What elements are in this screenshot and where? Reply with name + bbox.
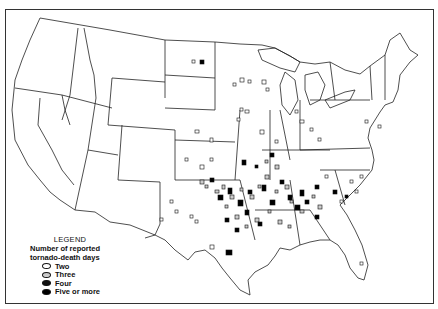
legend-subtitle-line1: Number of reported	[30, 244, 110, 253]
legend: LEGEND Number of reported tornado-death …	[30, 235, 110, 296]
legend-item-five-or-more: Five or more	[42, 288, 110, 297]
legend-item-two: Two	[42, 262, 110, 271]
legend-title: LEGEND	[30, 235, 110, 244]
county-markers	[160, 60, 381, 265]
legend-item-label: Five or more	[55, 287, 100, 296]
ellipse-grey-icon	[42, 272, 51, 278]
legend-subtitle-line2: tornado-death days	[30, 253, 110, 262]
legend-item-three: Three	[42, 271, 110, 280]
ellipse-solid-icon	[42, 289, 51, 295]
ellipse-black-icon	[42, 280, 51, 286]
ellipse-outline-icon	[42, 263, 51, 269]
legend-item-four: Four	[42, 279, 110, 288]
